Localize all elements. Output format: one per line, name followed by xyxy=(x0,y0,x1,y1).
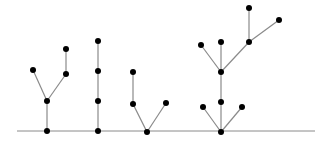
tree-node xyxy=(30,67,36,73)
tree-node xyxy=(218,129,224,135)
tree-edge xyxy=(133,104,147,132)
tree-node xyxy=(63,71,69,77)
tree-node xyxy=(95,68,101,74)
tree-node xyxy=(144,129,150,135)
tree-edge xyxy=(47,74,66,101)
tree-edge xyxy=(249,20,279,42)
tree-node xyxy=(276,17,282,23)
tree-edge xyxy=(33,70,47,101)
tree-node xyxy=(95,128,101,134)
tree-edge xyxy=(201,45,221,72)
tree-edge xyxy=(221,107,242,132)
tree-node xyxy=(130,69,136,75)
tree-edge xyxy=(203,107,221,132)
tree-node xyxy=(246,39,252,45)
tree-edge xyxy=(147,103,166,132)
tree-node xyxy=(44,98,50,104)
tree-node xyxy=(130,101,136,107)
tree-2 xyxy=(95,38,101,134)
tree-1 xyxy=(30,46,69,134)
tree-4 xyxy=(198,5,282,135)
tree-node xyxy=(218,39,224,45)
tree-node xyxy=(44,128,50,134)
tree-3 xyxy=(130,69,169,135)
tree-node xyxy=(95,98,101,104)
forest-diagram xyxy=(0,0,329,145)
tree-node xyxy=(218,99,224,105)
tree-node xyxy=(218,69,224,75)
tree-node xyxy=(163,100,169,106)
trees-group xyxy=(30,5,282,135)
tree-node xyxy=(63,46,69,52)
tree-node xyxy=(239,104,245,110)
tree-node xyxy=(246,5,252,11)
tree-node xyxy=(200,104,206,110)
tree-edge xyxy=(221,42,249,72)
tree-node xyxy=(95,38,101,44)
tree-node xyxy=(198,42,204,48)
